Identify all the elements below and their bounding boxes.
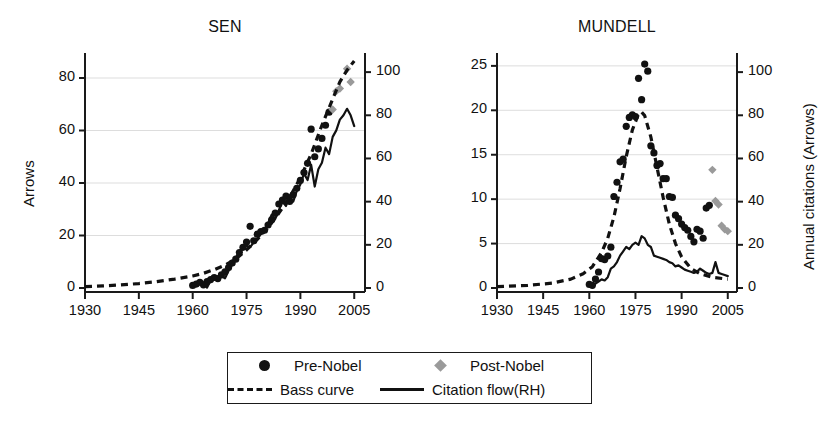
filled-circle-icon <box>259 360 270 371</box>
panel-title-mundell: MUNDELL <box>457 18 777 36</box>
post-nobel-point <box>724 227 732 235</box>
pre-nobel-point <box>632 113 639 120</box>
post-nobel-point <box>332 87 340 95</box>
pre-nobel-point <box>272 210 279 217</box>
post-nobel-point <box>328 105 336 113</box>
pre-nobel-point <box>675 215 682 222</box>
pre-nobel-point <box>290 191 297 198</box>
x-tick-label: 2005 <box>696 302 760 318</box>
legend-item[interactable]: Bass curve <box>228 380 354 398</box>
pre-nobel-point <box>300 169 307 176</box>
pre-nobel-point <box>225 264 232 271</box>
legend-label: Citation flow(RH) <box>432 381 545 398</box>
pre-nobel-point <box>229 259 236 266</box>
legend-label: Post-Nobel <box>470 357 544 374</box>
x-tick-label: 2005 <box>322 302 386 318</box>
pre-nobel-point <box>696 228 703 235</box>
legend-marker <box>228 380 272 398</box>
pre-nobel-point <box>257 228 264 235</box>
pre-nobel-point <box>641 61 648 68</box>
pre-nobel-point <box>196 279 203 286</box>
y-tick-label-right: 0 <box>748 278 794 294</box>
dashed-line-icon <box>228 388 272 391</box>
pre-nobel-point <box>247 223 254 230</box>
pre-nobel-point <box>635 75 642 82</box>
pre-nobel-point <box>275 200 282 207</box>
pre-nobel-point <box>207 276 214 283</box>
y-tick-label-right: 40 <box>376 192 422 208</box>
y-tick-label-right: 100 <box>748 62 794 78</box>
pre-nobel-point <box>690 238 697 245</box>
bass-curve-line <box>497 112 728 287</box>
pre-nobel-point <box>315 145 322 152</box>
pre-nobel-point <box>663 175 670 182</box>
pre-nobel-point <box>586 281 593 288</box>
pre-nobel-point <box>236 249 243 256</box>
y-tick-label-left: 0 <box>437 278 487 294</box>
y-tick-label-right: 60 <box>748 148 794 164</box>
post-nobel-point <box>343 65 351 73</box>
pre-nobel-point <box>232 256 239 263</box>
pre-nobel-point <box>629 111 636 118</box>
pre-nobel-point <box>647 142 654 149</box>
pre-nobel-point <box>318 135 325 142</box>
pre-nobel-point <box>211 274 218 281</box>
pre-nobel-point <box>703 204 710 211</box>
pre-nobel-point <box>243 238 250 245</box>
filled-diamond-icon <box>434 359 447 372</box>
y-tick-label-right: 80 <box>748 105 794 121</box>
citation-flow-line <box>589 236 727 287</box>
pre-nobel-point <box>589 282 596 289</box>
y-tick-label-left: 25 <box>437 56 487 72</box>
pre-nobel-point <box>626 114 633 121</box>
pre-nobel-point <box>601 256 608 263</box>
legend-label: Pre-Nobel <box>294 357 362 374</box>
solid-line-icon <box>380 388 424 391</box>
pre-nobel-point <box>672 212 679 219</box>
y-tick-label-left: 60 <box>25 121 75 137</box>
y-tick-label-right: 60 <box>376 148 422 164</box>
pre-nobel-point <box>653 162 660 169</box>
post-nobel-point <box>346 78 354 86</box>
legend-marker <box>418 356 462 374</box>
pre-nobel-point <box>261 227 268 234</box>
pre-nobel-point <box>264 221 271 228</box>
legend-item[interactable]: Citation flow(RH) <box>380 380 545 398</box>
y2-axis-title-annual-citations: Annual citations (Arrows) <box>800 103 817 270</box>
pre-nobel-point <box>644 68 651 75</box>
post-nobel-point <box>711 197 719 205</box>
pre-nobel-point <box>203 278 210 285</box>
pre-nobel-point <box>598 255 605 262</box>
pre-nobel-point <box>268 216 275 223</box>
pre-nobel-point <box>322 122 329 129</box>
legend-item[interactable]: Post-Nobel <box>418 356 544 374</box>
pre-nobel-point <box>311 153 318 160</box>
y-tick-label-right: 20 <box>376 235 422 251</box>
pre-nobel-point <box>678 220 685 227</box>
pre-nobel-point <box>681 224 688 231</box>
pre-nobel-point <box>297 177 304 184</box>
citation-flow-line <box>193 109 355 288</box>
pre-nobel-point <box>693 226 700 233</box>
pre-nobel-point <box>660 175 667 182</box>
pre-nobel-point <box>700 235 707 242</box>
pre-nobel-point <box>282 193 289 200</box>
pre-nobel-point <box>279 196 286 203</box>
post-nobel-point <box>708 166 716 174</box>
pre-nobel-point <box>304 160 311 167</box>
pre-nobel-point <box>610 193 617 200</box>
pre-nobel-point <box>250 237 257 244</box>
pre-nobel-point <box>218 271 225 278</box>
pre-nobel-point <box>706 202 713 209</box>
y-tick-label-right: 0 <box>376 278 422 294</box>
y-tick-label-left: 0 <box>25 278 75 294</box>
post-nobel-point <box>336 84 344 92</box>
pre-nobel-point <box>308 126 315 133</box>
pre-nobel-point <box>286 198 293 205</box>
pre-nobel-point <box>687 233 694 240</box>
pre-nobel-point <box>326 109 333 116</box>
y-tick-label-right: 20 <box>748 235 794 251</box>
legend-item[interactable]: Pre-Nobel <box>242 356 362 374</box>
pre-nobel-point <box>214 275 221 282</box>
pre-nobel-point <box>604 252 611 259</box>
